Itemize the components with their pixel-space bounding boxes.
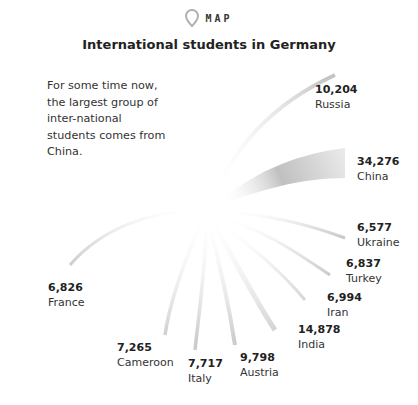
label-russia: 10,204 Russia — [315, 82, 357, 112]
country-name: Russia — [315, 97, 357, 112]
value: 9,798 — [240, 350, 279, 365]
country-name: Iran — [327, 305, 362, 320]
value: 34,276 — [357, 154, 399, 169]
label-italy: 7,717 Italy — [188, 356, 223, 386]
flow-italy — [195, 228, 206, 350]
value: 14,878 — [298, 322, 340, 337]
label-turkey: 6,837 Turkey — [346, 256, 382, 286]
label-iran: 6,994 Iran — [327, 290, 362, 320]
value: 6,994 — [327, 290, 362, 305]
label-china: 34,276 China — [357, 154, 399, 184]
label-india: 14,878 India — [298, 322, 340, 352]
country-name: China — [357, 169, 399, 184]
label-ukraine: 6,577 Ukraine — [357, 220, 399, 250]
flow-austria — [210, 228, 235, 345]
flow-diagram — [0, 0, 418, 405]
label-cameroon: 7,265 Cameroon — [117, 340, 174, 370]
flow-france — [70, 212, 195, 265]
country-name: Italy — [188, 371, 223, 386]
label-france: 6,826 France — [48, 280, 85, 310]
value: 6,837 — [346, 256, 382, 271]
value: 6,577 — [357, 220, 399, 235]
country-name: France — [48, 295, 85, 310]
value: 7,717 — [188, 356, 223, 371]
label-austria: 9,798 Austria — [240, 350, 279, 380]
flow-cameroon — [165, 225, 200, 335]
value: 10,204 — [315, 82, 357, 97]
country-name: Austria — [240, 365, 279, 380]
country-name: Turkey — [346, 271, 382, 286]
country-name: India — [298, 337, 340, 352]
country-name: Ukraine — [357, 235, 399, 250]
value: 6,826 — [48, 280, 85, 295]
value: 7,265 — [117, 340, 174, 355]
country-name: Cameroon — [117, 355, 174, 370]
